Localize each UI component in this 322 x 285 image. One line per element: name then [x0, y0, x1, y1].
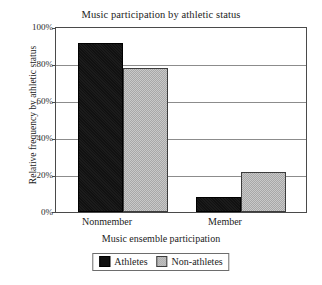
x-tick-label-member: Member — [175, 216, 275, 227]
x-axis-title: Music ensemble participation — [0, 233, 322, 244]
legend-label-athletes: Athletes — [114, 256, 147, 267]
y-tick-mark-20 — [52, 176, 56, 177]
bar-member-athletes — [196, 197, 241, 212]
legend-swatch-gray-square-icon — [157, 256, 168, 267]
legend-label-nonathletes: Non-athletes — [172, 256, 223, 267]
plot-area — [55, 27, 307, 213]
chart-legend: Athletes Non-athletes — [92, 253, 229, 271]
bar-member-nonathletes — [241, 172, 286, 212]
y-tick-mark-40 — [52, 139, 56, 140]
y-axis-title: Relative frequency by athletic status — [28, 20, 38, 210]
legend-entry-athletes: Athletes — [99, 256, 147, 267]
x-tick-label-nonmember: Nonmember — [57, 216, 157, 227]
y-tick-label-20: 20% — [7, 171, 53, 180]
chart-title: Music participation by athletic status — [0, 8, 322, 21]
y-tick-mark-0 — [52, 212, 56, 213]
y-tick-mark-100 — [52, 28, 56, 29]
bar-chart-figure: Music participation by athletic status R… — [0, 0, 322, 285]
bar-nonmember-athletes — [78, 43, 123, 212]
bar-nonmember-nonathletes — [123, 68, 168, 212]
y-tick-mark-80 — [52, 65, 56, 66]
y-tick-label-80: 80% — [7, 60, 53, 69]
y-tick-label-100: 100% — [7, 23, 53, 32]
y-tick-label-40: 40% — [7, 134, 53, 143]
legend-swatch-black-square-icon — [99, 256, 110, 267]
y-tick-label-0: 0% — [7, 208, 53, 217]
legend-entry-nonathletes: Non-athletes — [157, 256, 223, 267]
y-tick-mark-60 — [52, 102, 56, 103]
y-tick-label-60: 60% — [7, 97, 53, 106]
